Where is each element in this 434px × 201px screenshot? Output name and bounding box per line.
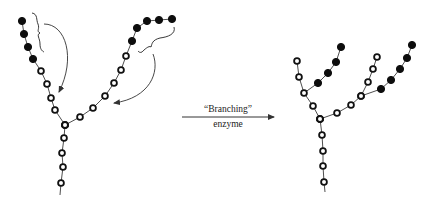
glucose-residue-open [365,79,371,85]
glucose-residue-open [320,148,326,154]
glucose-residue-open [374,54,380,60]
glucose-residue-filled [24,43,31,50]
glucose-residue-filled [20,30,27,37]
diagram-canvas: “Branching” enzyme [0,0,434,201]
glucose-residue-filled [168,15,175,22]
glucose-residue-filled [387,76,394,83]
glucose-residue-filled [314,79,321,86]
glucose-residue-filled [128,37,135,44]
glucose-residue-open [59,150,65,156]
glucose-residue-open [61,135,67,141]
glucose-residue-filled [408,41,415,48]
transfer-annotations [32,13,174,103]
left-segment-brace [32,13,44,52]
reaction-label-bottom: enzyme [213,119,243,129]
glucose-residue-open [90,105,96,111]
glucose-residue-open [321,179,327,185]
glucose-residue-open [118,67,124,73]
glucose-residue-filled [155,16,162,23]
glucose-residue-open [301,90,307,96]
right-segment-brace [138,27,174,52]
glucose-residue-open [370,66,376,72]
glucose-residue-open [48,95,54,101]
glucose-residue-open [310,103,316,109]
glucose-residue-filled [403,54,410,61]
before-structure [18,15,175,195]
branching-enzyme-diagram: “Branching” enzyme [0,0,434,201]
glucose-residue-open [44,81,50,87]
reaction-arrow: “Branching” enzyme [182,104,274,129]
reaction-label-top: “Branching” [204,104,252,114]
right-transfer-arrow [114,54,155,103]
glucose-residue-filled [133,24,140,31]
glucose-residue-open [77,114,83,120]
glucose-residue-open [348,102,354,108]
glucose-residue-open [123,53,129,59]
glucose-residue-filled [377,85,384,92]
glucose-residue-filled [18,17,25,24]
glucose-residue-open [358,93,364,99]
glucose-residue-open [111,80,117,86]
glucose-residue-open [62,122,68,128]
glucose-residue-filled [324,69,331,76]
glucose-residue-open [317,116,323,122]
glucose-residue-open [38,68,44,74]
glucose-residue-open [52,107,58,113]
glucose-residue-filled [337,43,344,50]
glucose-residue-filled [396,65,403,72]
glucose-residue-open [296,74,302,80]
glucose-residue-filled [332,58,339,65]
after-structure [294,41,416,192]
glucose-residue-open [320,163,326,169]
glucose-residue-filled [29,55,36,62]
glucose-residue-open [294,58,300,64]
glucose-residue-open [102,93,108,99]
glucose-residue-open [58,180,64,186]
glucose-residue-filled [143,17,150,24]
glucose-residue-open [60,164,66,170]
glucose-residue-open [334,110,340,116]
glucose-residue-open [319,132,325,138]
